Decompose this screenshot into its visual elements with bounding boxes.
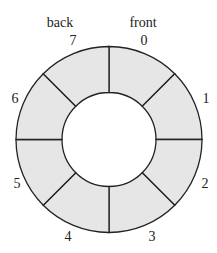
slot-label-0: 0 bbox=[141, 34, 148, 48]
slot-label-3: 3 bbox=[149, 230, 156, 244]
slot-label-6: 6 bbox=[12, 92, 19, 106]
slot-label-4: 4 bbox=[65, 230, 72, 244]
slot-label-1: 1 bbox=[203, 92, 210, 106]
slot-label-7: 7 bbox=[70, 34, 77, 48]
back-pointer-label: back bbox=[47, 16, 73, 30]
slot-label-5: 5 bbox=[14, 177, 21, 191]
ring-graphic bbox=[0, 0, 217, 253]
front-pointer-label: front bbox=[129, 16, 156, 30]
circular-buffer-diagram: back front 0 1 2 3 4 5 6 7 bbox=[0, 0, 217, 253]
slot-label-2: 2 bbox=[202, 177, 209, 191]
